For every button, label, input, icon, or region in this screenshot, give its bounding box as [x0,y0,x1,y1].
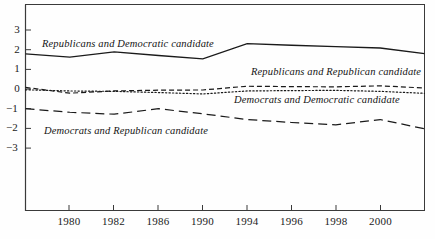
series-annotation-democrats-republican-candidate: Democrats and Republican candidate [44,125,208,136]
x-tick-label-1998: 1998 [316,215,356,227]
series-paths [26,44,425,129]
x-tick-label-1980: 1980 [49,215,89,227]
y-tick-label-2: 2 [2,43,20,55]
x-tick-label-1996: 1996 [272,215,312,227]
y-tick-label-neg-3: −3 [0,141,18,153]
series-annotation-republicans-republican-candidate: Republicans and Republican candidate [251,66,421,77]
y-tick-label-3: 3 [2,23,20,35]
y-tick-label-1: 1 [2,62,20,74]
x-tick-label-1982: 1982 [94,215,134,227]
series-annotation-democrats-democratic-candidate: Democrats and Democratic candidate [234,94,400,105]
x-tick-label-1994: 1994 [227,215,267,227]
x-tick-label-2000: 2000 [361,215,401,227]
y-tick-label-neg-2: −2 [0,121,18,133]
x-tick-label-1986: 1986 [138,215,178,227]
series-annotation-republicans-democratic-candidate: Republicans and Democratic candidate [42,38,214,49]
chart-figure: 3 2 1 0 −1 −2 −3 1980 1982 1986 1990 199… [0,0,435,239]
x-tick-label-1990: 1990 [183,215,223,227]
axis-frame [25,5,425,212]
chart-plot-area [0,0,435,239]
y-tick-label-neg-1: −1 [0,102,18,114]
y-tick-label-0: 0 [2,82,20,94]
